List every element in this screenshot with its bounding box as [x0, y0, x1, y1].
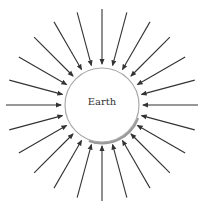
arrow [131, 37, 170, 76]
arrow [19, 57, 67, 85]
arrow [34, 37, 73, 76]
arrow [138, 126, 186, 154]
arrow [9, 80, 62, 94]
arrow [142, 116, 195, 130]
earth-label: Earth [62, 96, 142, 107]
arrow [138, 57, 186, 85]
arrow [77, 12, 91, 65]
arrow [113, 145, 127, 198]
arrow [34, 134, 73, 173]
arrow [9, 116, 62, 130]
arrow [123, 141, 151, 189]
earth-diagram: Earth [0, 0, 205, 214]
arrow [54, 22, 82, 70]
arrow [131, 134, 170, 173]
arrow [123, 22, 151, 70]
arrow [113, 12, 127, 65]
arrow [77, 145, 91, 198]
arrow [142, 80, 195, 94]
arrow [54, 141, 82, 189]
arrows-diagram [0, 0, 205, 214]
arrow [19, 126, 67, 154]
